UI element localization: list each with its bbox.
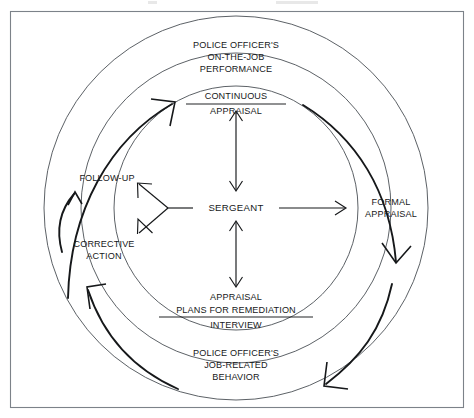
sergeant-to-appraisal-interview-arrow	[230, 221, 243, 287]
scan-artifact	[276, 1, 318, 4]
node-center-sergeant: SERGEANT	[208, 202, 263, 213]
node-on-the-job-performance: POLICE OFFICER'S ON-THE-JOB PERFORMANCE	[193, 40, 279, 74]
sergeant-to-formal-appraisal-arrow	[279, 201, 346, 215]
node-label-line: ACTION	[86, 251, 121, 261]
node-label-line: CORRECTIVE	[73, 239, 134, 249]
node-label-line: JOB-RELATED	[204, 360, 268, 370]
scan-artifact	[148, 1, 157, 4]
node-label-line: POLICE OFFICER'S	[193, 40, 279, 50]
cycle-arrow-bottom-left	[87, 284, 178, 389]
node-label-line: PLANS FOR REMEDIATION	[176, 305, 296, 315]
sergeant-fork-arrow	[138, 183, 194, 234]
figure-root: POLICE OFFICER'S ON-THE-JOB PERFORMANCE …	[0, 0, 474, 418]
node-label-line: INTERVIEW	[210, 320, 262, 330]
node-label-line: BEHAVIOR	[212, 372, 260, 382]
node-label-line: APPRAISAL	[210, 292, 262, 302]
node-label-line: FORMAL	[372, 197, 411, 207]
node-appraisal-interview: APPRAISAL PLANS FOR REMEDIATION INTERVIE…	[159, 292, 313, 330]
node-label-line: CONTINUOUS	[205, 91, 268, 101]
cycle-arrow-top-right	[303, 105, 411, 263]
cycle-diagram: POLICE OFFICER'S ON-THE-JOB PERFORMANCE …	[0, 0, 474, 418]
node-label-line: APPRAISAL	[365, 209, 417, 219]
node-job-related-behavior: POLICE OFFICER'S JOB-RELATED BEHAVIOR	[193, 348, 279, 382]
node-corrective-action: CORRECTIVE ACTION	[73, 239, 134, 261]
node-label-line: FOLLOW-UP	[79, 173, 134, 183]
sergeant-to-continuous-appraisal-arrow	[230, 111, 243, 191]
node-label-line: POLICE OFFICER'S	[193, 348, 279, 358]
center-label: SERGEANT	[208, 202, 263, 213]
node-follow-up: FOLLOW-UP	[79, 173, 134, 183]
node-continuous-appraisal: CONTINUOUS APPRAISAL	[186, 91, 286, 116]
node-label-line: ON-THE-JOB	[207, 52, 264, 62]
node-label-line: PERFORMANCE	[200, 64, 272, 74]
cycle-arrow-top-left	[68, 99, 175, 298]
node-label-line: APPRAISAL	[210, 106, 262, 116]
